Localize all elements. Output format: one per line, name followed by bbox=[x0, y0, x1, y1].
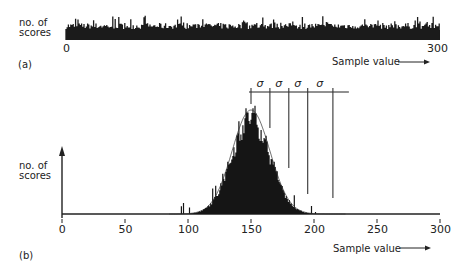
sigma-label: σ bbox=[275, 78, 282, 89]
x-tick-label: 250 bbox=[367, 224, 388, 235]
sigma-label: σ bbox=[316, 78, 323, 89]
panel-b-xlabel: Sample value bbox=[333, 243, 401, 254]
x-tick-label: 100 bbox=[178, 224, 199, 235]
panel-b-label: (b) bbox=[19, 250, 33, 261]
x-tick-label: 300 bbox=[430, 224, 451, 235]
x-tick-label: 150 bbox=[241, 224, 262, 235]
x-tick-label: 200 bbox=[304, 224, 325, 235]
x-tick-label: 0 bbox=[59, 224, 66, 235]
x-tick-label: 50 bbox=[118, 224, 132, 235]
sigma-label: σ bbox=[294, 78, 301, 89]
sigma-label: σ bbox=[256, 78, 263, 89]
panel-b-histogram bbox=[0, 0, 469, 270]
